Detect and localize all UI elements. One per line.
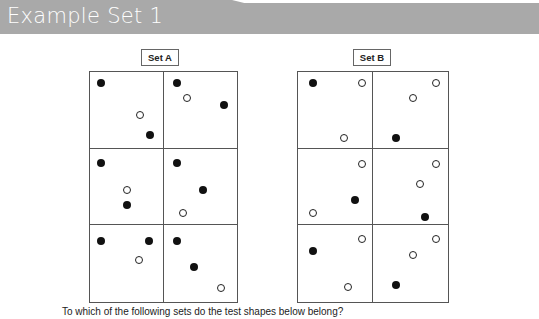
grid-cell [90, 225, 164, 302]
filled-circle-icon [199, 186, 207, 194]
hollow-circle-icon [409, 251, 417, 259]
hollow-circle-icon [358, 160, 366, 168]
set-b-panel [297, 71, 449, 303]
filled-circle-icon [145, 237, 153, 245]
filled-circle-icon [309, 79, 317, 87]
grid-cell [298, 72, 373, 149]
grid-cell [373, 72, 448, 149]
grid-cell [90, 72, 164, 149]
filled-circle-icon [392, 281, 400, 289]
grid-cell [90, 149, 164, 226]
filled-circle-icon [97, 159, 105, 167]
grid-cell [298, 149, 373, 226]
question-text: To which of the following sets do the te… [62, 306, 343, 317]
filled-circle-icon [97, 79, 105, 87]
filled-circle-icon [421, 213, 429, 221]
set-a-label: Set A [141, 49, 179, 66]
filled-circle-icon [309, 247, 317, 255]
hollow-circle-icon [358, 235, 366, 243]
filled-circle-icon [173, 159, 181, 167]
filled-circle-icon [97, 237, 105, 245]
hollow-circle-icon [183, 94, 191, 102]
hollow-circle-icon [309, 209, 317, 217]
hollow-circle-icon [179, 209, 187, 217]
hollow-circle-icon [344, 283, 352, 291]
filled-circle-icon [190, 263, 198, 271]
hollow-circle-icon [136, 111, 144, 119]
hollow-circle-icon [432, 79, 440, 87]
hollow-circle-icon [432, 235, 440, 243]
filled-circle-icon [123, 201, 131, 209]
hollow-circle-icon [409, 94, 417, 102]
hollow-circle-icon [432, 160, 440, 168]
hollow-circle-icon [135, 256, 143, 264]
hollow-circle-icon [416, 180, 424, 188]
filled-circle-icon [146, 131, 154, 139]
grid-cell [164, 149, 238, 226]
filled-circle-icon [173, 237, 181, 245]
grid-cell [164, 225, 238, 302]
hollow-circle-icon [340, 134, 348, 142]
hollow-circle-icon [217, 284, 225, 292]
grid-cell [164, 72, 238, 149]
set-b-label: Set B [353, 49, 391, 66]
grid-cell [373, 225, 448, 302]
filled-circle-icon [173, 79, 181, 87]
grid-cell [298, 225, 373, 302]
grid-cell [373, 149, 448, 226]
filled-circle-icon [392, 134, 400, 142]
filled-circle-icon [351, 196, 359, 204]
hollow-circle-icon [358, 79, 366, 87]
hollow-circle-icon [123, 186, 131, 194]
filled-circle-icon [220, 101, 228, 109]
header-notch [232, 0, 539, 3]
set-a-panel [89, 71, 238, 303]
page-title: Example Set 1 [7, 4, 163, 28]
